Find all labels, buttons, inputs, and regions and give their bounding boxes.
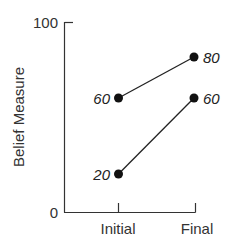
y-axis-label: Belief Measure <box>10 67 27 167</box>
series-upper-line <box>119 57 195 98</box>
point-label-final-80: 80 <box>203 49 220 66</box>
marker-final-80 <box>190 53 199 62</box>
y-tick-label-0: 0 <box>50 204 58 221</box>
marker-initial-60 <box>114 94 123 103</box>
chart: 100 0 Belief Measure Initial Final 60 80… <box>0 0 228 246</box>
y-tick-label-100: 100 <box>33 14 58 31</box>
series-lower-line <box>119 98 195 174</box>
x-label-final: Final <box>181 220 214 237</box>
point-label-final-60: 60 <box>203 90 220 107</box>
x-label-initial: Initial <box>100 220 135 237</box>
point-label-initial-60: 60 <box>93 90 110 107</box>
point-label-initial-20: 20 <box>92 166 110 183</box>
marker-initial-20 <box>114 170 123 179</box>
marker-final-60 <box>190 94 199 103</box>
